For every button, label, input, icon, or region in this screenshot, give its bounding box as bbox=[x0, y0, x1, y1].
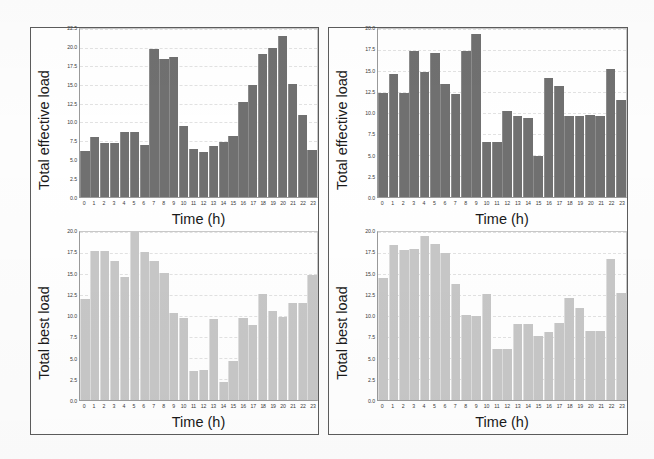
x-tick-label: 3 bbox=[408, 198, 418, 209]
bar bbox=[90, 137, 99, 197]
x-tick-label: 11 bbox=[188, 198, 198, 209]
figure-panel-right: Total effective load 0.02.55.07.510.012.… bbox=[328, 27, 628, 435]
x-axis-label: Time (h) bbox=[355, 209, 627, 231]
bar-series bbox=[378, 232, 626, 400]
bar bbox=[451, 284, 461, 400]
bar bbox=[564, 116, 574, 197]
y-tick-label: 7.5 bbox=[70, 334, 77, 340]
y-tick-label: 10.0 bbox=[365, 110, 375, 116]
y-tick-label: 0.0 bbox=[368, 195, 375, 201]
x-tick-label: 20 bbox=[278, 198, 288, 209]
bar bbox=[238, 318, 247, 400]
x-tick-label: 2 bbox=[99, 198, 109, 209]
plot-axes bbox=[377, 28, 627, 198]
bar bbox=[90, 251, 99, 400]
x-tick-label: 10 bbox=[481, 401, 491, 412]
y-tick-label: 22.5 bbox=[67, 25, 77, 31]
bar bbox=[492, 142, 502, 197]
bar bbox=[440, 84, 450, 197]
y-tick-label: 17.5 bbox=[365, 46, 375, 52]
bar bbox=[199, 370, 208, 400]
x-tick-label: 7 bbox=[149, 198, 159, 209]
x-tick-label: 14 bbox=[523, 198, 533, 209]
x-tick-label: 8 bbox=[460, 401, 470, 412]
x-tick-label: 16 bbox=[238, 198, 248, 209]
x-tick-label: 22 bbox=[298, 198, 308, 209]
bar bbox=[482, 142, 492, 197]
x-tick-label: 11 bbox=[492, 198, 502, 209]
bar bbox=[378, 93, 388, 197]
plot-axes bbox=[79, 231, 318, 401]
chart-bottom-left: Total best load 0.02.55.07.510.012.515.0… bbox=[31, 231, 318, 434]
bar bbox=[595, 331, 605, 400]
x-tick-label: 21 bbox=[596, 401, 606, 412]
y-tick-label: 5.0 bbox=[368, 153, 375, 159]
x-tick-label: 15 bbox=[228, 401, 238, 412]
x-tick-label: 14 bbox=[523, 401, 533, 412]
bar bbox=[298, 115, 307, 197]
y-axis-label: Total best load bbox=[334, 286, 350, 380]
bar bbox=[120, 132, 129, 197]
bar bbox=[248, 85, 257, 197]
y-tick-label: 7.5 bbox=[70, 138, 77, 144]
y-axis-ticks: 0.02.55.07.510.012.515.017.520.0 bbox=[355, 28, 377, 198]
x-tick-label: 4 bbox=[419, 401, 429, 412]
y-tick-label: 20.0 bbox=[365, 228, 375, 234]
bar bbox=[533, 156, 543, 197]
bar bbox=[110, 143, 119, 198]
x-tick-label: 22 bbox=[298, 401, 308, 412]
x-tick-label: 3 bbox=[408, 401, 418, 412]
bar bbox=[616, 100, 626, 197]
x-tick-label: 13 bbox=[208, 198, 218, 209]
bar bbox=[199, 152, 208, 197]
x-tick-label: 12 bbox=[502, 401, 512, 412]
x-tick-label: 1 bbox=[89, 401, 99, 412]
x-tick-label: 17 bbox=[248, 401, 258, 412]
bar bbox=[159, 59, 168, 197]
y-axis-ticks: 0.02.55.07.510.012.515.017.520.022.5 bbox=[57, 28, 79, 198]
bar bbox=[616, 293, 626, 400]
bar bbox=[399, 250, 409, 400]
bar bbox=[585, 115, 595, 197]
x-tick-label: 5 bbox=[429, 198, 439, 209]
x-tick-label: 0 bbox=[79, 401, 89, 412]
x-tick-label: 3 bbox=[109, 198, 119, 209]
bar bbox=[595, 116, 605, 197]
bar bbox=[130, 132, 139, 197]
bar bbox=[209, 146, 218, 197]
bar bbox=[100, 143, 109, 197]
x-tick-label: 21 bbox=[596, 198, 606, 209]
x-tick-label: 0 bbox=[377, 401, 387, 412]
x-tick-label: 8 bbox=[460, 198, 470, 209]
bar bbox=[482, 294, 492, 400]
x-tick-label: 9 bbox=[169, 401, 179, 412]
x-tick-label: 12 bbox=[198, 198, 208, 209]
bar bbox=[268, 48, 277, 197]
x-tick-label: 20 bbox=[278, 401, 288, 412]
bar bbox=[606, 69, 616, 197]
bar bbox=[238, 102, 247, 197]
y-tick-label: 20.0 bbox=[67, 228, 77, 234]
chart-top-right: Total effective load 0.02.55.07.510.012.… bbox=[329, 28, 627, 231]
y-axis-label: Total effective load bbox=[36, 70, 52, 190]
y-tick-label: 20.0 bbox=[365, 25, 375, 31]
x-tick-label: 5 bbox=[129, 198, 139, 209]
bar bbox=[440, 253, 450, 400]
bar bbox=[80, 151, 89, 197]
x-axis-label: Time (h) bbox=[355, 412, 627, 434]
bar bbox=[159, 273, 168, 400]
x-tick-label: 19 bbox=[575, 401, 585, 412]
x-tick-label: 4 bbox=[119, 198, 129, 209]
x-tick-label: 22 bbox=[606, 198, 616, 209]
bar bbox=[420, 72, 430, 197]
bar bbox=[533, 336, 543, 400]
x-tick-label: 16 bbox=[238, 401, 248, 412]
y-tick-label: 12.5 bbox=[67, 292, 77, 298]
bar bbox=[502, 111, 512, 197]
y-axis-label-wrap: Total best load bbox=[329, 231, 355, 434]
y-tick-label: 12.5 bbox=[365, 89, 375, 95]
x-tick-label: 7 bbox=[450, 198, 460, 209]
bar bbox=[278, 317, 287, 400]
y-tick-label: 0.0 bbox=[70, 398, 77, 404]
bar bbox=[307, 275, 316, 400]
